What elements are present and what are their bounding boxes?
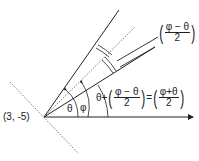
point-label: (3, -5) (3, 111, 30, 122)
equation-prefix: θ+ (96, 92, 107, 103)
theta-label: θ (67, 103, 73, 114)
angle-arc-double-2b (102, 60, 113, 73)
equals-sign: = (146, 92, 152, 103)
rhs-denominator: 2 (166, 98, 172, 108)
top-fraction: ( φ − θ 2 ) (158, 22, 197, 43)
equation: θ+ ( φ − θ 2 ) = ( φ+θ 2 ) (96, 87, 185, 108)
leader-line-2 (120, 47, 155, 67)
phi-label: φ (80, 102, 86, 113)
lhs-denominator: 2 (124, 98, 130, 108)
top-fraction-denominator: 2 (175, 33, 181, 43)
angle-arc-double-1b (96, 48, 109, 57)
